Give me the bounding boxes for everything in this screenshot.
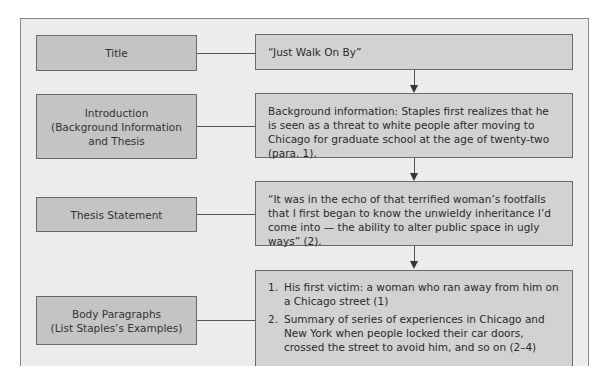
- connector-title: [197, 53, 255, 54]
- label-box-body: Body Paragraphs (List Staples’s Examples…: [36, 296, 197, 345]
- connector-body: [197, 320, 255, 321]
- label-box-introduction: Introduction (Background Information and…: [36, 94, 197, 159]
- arrow-down-icon: [410, 173, 418, 181]
- list-item-number: 2.: [268, 312, 284, 354]
- label-body-line2: (List Staples’s Examples): [51, 321, 183, 335]
- content-title: “Just Walk On By”: [268, 45, 361, 59]
- list-item: 1. His first victim: a woman who ran awa…: [268, 280, 560, 308]
- list-item: 2. Summary of series of experiences in C…: [268, 312, 560, 354]
- flow-line-3: [414, 246, 415, 262]
- content-box-introduction: Background information: Staples first re…: [255, 93, 573, 158]
- content-box-title: “Just Walk On By”: [255, 34, 573, 70]
- examples-list: 1. His first victim: a woman who ran awa…: [268, 280, 560, 354]
- flow-line-1: [414, 70, 415, 86]
- list-item-text: His first victim: a woman who ran away f…: [284, 280, 560, 308]
- label-introduction-line3: and Thesis: [88, 134, 144, 148]
- label-box-title: Title: [36, 35, 197, 71]
- content-box-thesis: “It was in the echo of that terrified wo…: [255, 181, 573, 246]
- label-body-line1: Body Paragraphs: [72, 307, 161, 321]
- arrow-down-icon: [410, 261, 418, 269]
- content-introduction: Background information: Staples first re…: [268, 105, 549, 159]
- list-item-text: Summary of series of experiences in Chic…: [284, 312, 560, 354]
- connector-thesis: [197, 214, 255, 215]
- label-box-thesis: Thesis Statement: [36, 197, 197, 232]
- list-item-number: 1.: [268, 280, 284, 308]
- content-box-body: 1. His first victim: a woman who ran awa…: [255, 270, 573, 366]
- flow-line-2: [414, 158, 415, 174]
- connector-introduction: [197, 126, 255, 127]
- label-thesis: Thesis Statement: [71, 208, 163, 222]
- label-introduction-line2: (Background Information: [51, 120, 182, 134]
- label-introduction-line1: Introduction: [85, 106, 149, 120]
- arrow-down-icon: [410, 85, 418, 93]
- content-thesis: “It was in the echo of that terrified wo…: [268, 193, 551, 247]
- label-title: Title: [105, 46, 128, 60]
